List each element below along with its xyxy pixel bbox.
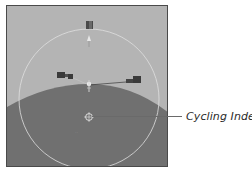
figure: ·· Cycling Index (0, 0, 252, 174)
3d-viewport: ·· (6, 5, 168, 167)
viewport-scene: ·· (7, 6, 168, 167)
callout-leader-line (92, 116, 182, 117)
callout-label: Cycling Index (186, 110, 252, 123)
faint-mark: ·· (75, 129, 79, 135)
